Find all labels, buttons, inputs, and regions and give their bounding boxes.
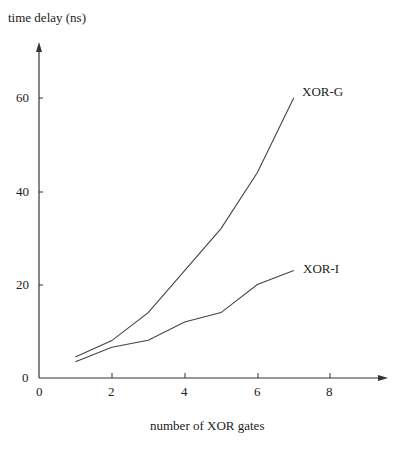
x-tick-label-6: 6 <box>254 384 261 400</box>
series-line-xor-i <box>75 271 293 362</box>
chart-canvas <box>0 0 402 449</box>
y-axis-label: time delay (ns) <box>8 10 86 26</box>
y-tick-label-40: 40 <box>16 184 29 200</box>
x-tick-label-4: 4 <box>181 384 188 400</box>
y-tick-label-0: 0 <box>22 370 29 386</box>
x-tick-label-2: 2 <box>108 384 115 400</box>
series-label-xor-g: XOR-G <box>302 84 343 100</box>
x-ticks <box>112 373 330 378</box>
series-line-xor-g <box>75 98 293 357</box>
series-label-xor-i: XOR-I <box>303 261 339 277</box>
x-tick-label-0: 0 <box>36 384 43 400</box>
y-tick-label-60: 60 <box>16 90 29 106</box>
x-tick-label-8: 8 <box>326 384 333 400</box>
x-axis-label: number of XOR gates <box>150 418 264 434</box>
y-axis-arrow-icon <box>36 42 42 52</box>
x-axis-arrow-icon <box>378 375 388 381</box>
y-tick-label-20: 20 <box>16 277 29 293</box>
